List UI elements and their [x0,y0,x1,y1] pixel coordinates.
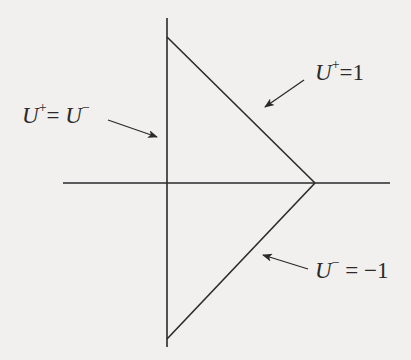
triangle-upper-edge [167,37,315,183]
label-superscript: − [82,100,90,115]
label-u-minus-equals-neg-one: U− = −1 [315,259,389,282]
label-superscript: − [332,255,340,270]
label-operator: = [340,258,364,283]
label-var: U [22,103,39,128]
label-value: −1 [364,258,388,283]
label-value: 1 [353,60,365,85]
arrow-bottom-right-label [263,255,308,269]
label-superscript: + [332,57,340,72]
diagram-canvas: U+= U− U+=1 U− = −1 [0,0,411,360]
triangle-lower-edge [167,183,315,339]
label-operator: = [47,103,66,128]
label-boundary-equal: U+= U− [22,104,90,127]
label-operator: = [340,60,353,85]
label-u-plus-equals-one: U+=1 [315,61,364,84]
arrow-left-label [108,120,157,137]
arrow-top-right-label [265,80,304,107]
diagram-svg [0,0,411,360]
label-var: U [65,103,82,128]
label-superscript: + [39,100,47,115]
label-var: U [315,258,332,283]
label-var: U [315,60,332,85]
